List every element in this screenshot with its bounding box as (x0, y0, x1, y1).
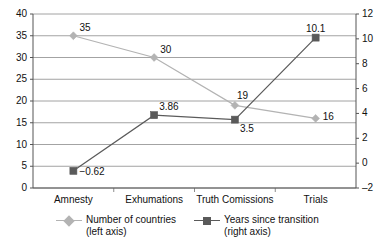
legend-label-line1: Number of countries (86, 214, 176, 225)
dual-axis-line-chart: 0510152025303540 –2024681012 AmnestyExhu… (0, 0, 391, 248)
data-point-value-label: −0.62 (79, 167, 104, 177)
y-axis-left-tick-label: 5 (3, 161, 27, 171)
data-point-value-label: 35 (79, 23, 90, 33)
data-point-value-label: 3.5 (240, 124, 254, 134)
chart-legend: Number of countries (left axis) Years si… (56, 214, 356, 246)
legend-label-years-since-transition: Years since transition (right axis) (224, 214, 319, 238)
y-axis-left-tick-label: 10 (3, 140, 27, 150)
y-axis-left-tick-label: 30 (3, 53, 27, 63)
series-layer (69, 32, 319, 175)
data-point-value-label: 30 (160, 45, 171, 55)
legend-label-line2: (right axis) (224, 226, 271, 237)
legend-label-number-of-countries: Number of countries (left axis) (86, 214, 176, 238)
gridlines (33, 14, 356, 188)
data-point-value-label: 10.1 (306, 24, 325, 34)
y-axis-left-tick-label: 35 (3, 31, 27, 41)
x-axis-category-label: Truth Comissions (196, 194, 273, 205)
y-axis-right-tick-label: 10 (362, 34, 388, 44)
y-axis-right-tick-label: 4 (362, 108, 388, 118)
data-point-value-label: 16 (323, 112, 334, 122)
chart-plot-area (0, 0, 391, 248)
x-axis-category-label: Exhumations (125, 194, 183, 205)
x-axis-category-label: Amnesty (54, 194, 93, 205)
legend-label-line1: Years since transition (224, 214, 319, 225)
y-axis-left-tick-label: 15 (3, 118, 27, 128)
y-axis-right-tick-label: 12 (362, 9, 388, 19)
y-axis-right-tick-label: 0 (362, 158, 388, 168)
y-axis-left-tick-label: 0 (3, 183, 27, 193)
y-axis-right-tick-label: 8 (362, 59, 388, 69)
data-point-value-label: 19 (237, 91, 248, 101)
data-point-value-label: 3.86 (159, 102, 178, 112)
y-axis-right-tick-label: 2 (362, 133, 388, 143)
x-axis-category-label: Trials (304, 194, 328, 205)
y-axis-left-tick-label: 25 (3, 74, 27, 84)
legend-marker-diamond-icon (56, 215, 82, 227)
y-axis-right-tick-label: –2 (362, 183, 388, 193)
legend-marker-square-icon (194, 215, 220, 227)
y-axis-left-tick-label: 20 (3, 96, 27, 106)
legend-item-years-since-transition: Years since transition (right axis) (194, 214, 319, 238)
legend-label-line2: (left axis) (86, 226, 127, 237)
y-axis-left-tick-label: 40 (3, 9, 27, 19)
legend-item-number-of-countries: Number of countries (left axis) (56, 214, 176, 238)
x-axis-ticks (114, 188, 276, 192)
y-axis-right-tick-label: 6 (362, 84, 388, 94)
